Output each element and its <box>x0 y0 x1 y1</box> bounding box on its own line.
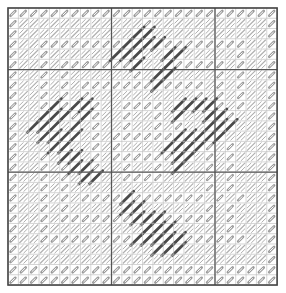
arrow-stitch <box>135 196 140 201</box>
arrow-stitch <box>73 278 78 283</box>
hatch-stitch <box>216 255 224 263</box>
hatch-stitch <box>71 173 79 181</box>
hatch-stitch <box>226 50 234 58</box>
hatch-stitch <box>113 255 121 263</box>
stitch-chart <box>0 0 286 293</box>
arrow-stitch <box>124 62 129 67</box>
hatch-stitch <box>92 255 100 263</box>
arrow-stitch <box>11 216 16 221</box>
hatch-stitch <box>216 214 224 222</box>
hatch-stitch <box>164 173 172 181</box>
arrow-stitch <box>155 155 160 160</box>
arrow-stitch <box>11 247 16 252</box>
arrow-stitch <box>145 155 150 160</box>
hatch-stitch <box>247 163 255 171</box>
arrow-stitch <box>145 268 150 273</box>
arrow-stitch <box>145 175 150 180</box>
arrow-stitch <box>166 83 171 88</box>
arrow-stitch <box>11 155 16 160</box>
arrow-stitch <box>62 237 67 242</box>
hatch-stitch <box>175 204 183 212</box>
arrow-stitch <box>62 216 67 221</box>
arrow-stitch <box>104 278 109 283</box>
hatch-stitch <box>133 224 141 232</box>
arrow-stitch <box>42 155 47 160</box>
hatch-stitch <box>257 81 265 89</box>
hatch-stitch <box>30 132 38 140</box>
arrow-stitch <box>155 124 160 129</box>
arrow-stitch <box>114 155 119 160</box>
hatch-stitch <box>257 153 265 161</box>
arrow-stitch <box>176 268 181 273</box>
arrow-stitch <box>21 268 26 273</box>
hatch-stitch <box>185 30 193 38</box>
hatch-stitch <box>133 112 141 120</box>
hatch-stitch <box>113 101 121 109</box>
arrow-stitch <box>166 42 171 47</box>
hatch-stitch <box>30 235 38 243</box>
arrow-stitch <box>42 52 47 57</box>
arrow-stitch <box>31 11 36 16</box>
hatch-stitch <box>19 245 27 253</box>
hatch-stitch <box>226 19 234 27</box>
arrow-stitch <box>124 83 129 88</box>
arrow-stitch <box>62 62 67 67</box>
hatch-stitch <box>206 81 214 89</box>
hatch-stitch <box>216 173 224 181</box>
hatch-stitch <box>81 204 89 212</box>
hatch-stitch <box>61 30 69 38</box>
arrow-stitch <box>124 268 129 273</box>
arrow-stitch <box>62 268 67 273</box>
hatch-stitch <box>216 245 224 253</box>
arrow-stitch <box>269 216 274 221</box>
arrow-stitch <box>269 268 274 273</box>
arrow-stitch <box>114 144 119 149</box>
hatch-stitch <box>216 153 224 161</box>
arrow-stitch <box>186 216 191 221</box>
arrow-stitch <box>135 268 140 273</box>
arrow-stitch <box>176 11 181 16</box>
hatch-stitch <box>30 245 38 253</box>
hatch-stitch <box>247 173 255 181</box>
hatch-stitch <box>247 255 255 263</box>
hatch-stitch <box>247 245 255 253</box>
hatch-stitch <box>237 163 245 171</box>
hatch-stitch <box>19 50 27 58</box>
arrow-stitch <box>42 185 47 190</box>
hatch-stitch <box>81 245 89 253</box>
hatch-stitch <box>102 255 110 263</box>
hatch-stitch <box>30 194 38 202</box>
arrow-stitch <box>42 216 47 221</box>
hatch-stitch <box>195 204 203 212</box>
arrow-stitch <box>249 278 254 283</box>
arrow-stitch <box>269 114 274 119</box>
arrow-stitch <box>73 62 78 67</box>
hatch-stitch <box>19 60 27 68</box>
hatch-stitch <box>19 71 27 79</box>
arrow-stitch <box>218 73 223 78</box>
hatch-stitch <box>71 30 79 38</box>
hatch-stitch <box>19 122 27 130</box>
hatch-stitch <box>154 60 162 68</box>
hatch-stitch <box>19 153 27 161</box>
arrow-stitch <box>207 144 212 149</box>
hatch-stitch <box>102 245 110 253</box>
arrow-stitch <box>155 134 160 139</box>
arrow-stitch <box>176 62 181 67</box>
arrow-stitch <box>114 83 119 88</box>
hatch-stitch <box>19 173 27 181</box>
hatch-stitch <box>257 194 265 202</box>
hatch-stitch <box>19 163 27 171</box>
arrow-stitch <box>218 268 223 273</box>
arrow-stitch <box>269 206 274 211</box>
hatch-stitch <box>113 183 121 191</box>
hatch-stitch <box>92 224 100 232</box>
hatch-stitch <box>50 19 58 27</box>
arrow-stitch <box>83 237 88 242</box>
hatch-stitch <box>19 214 27 222</box>
arrow-stitch <box>93 134 98 139</box>
arrow-stitch <box>176 124 181 129</box>
hatch-stitch <box>50 245 58 253</box>
arrow-stitch <box>42 196 47 201</box>
hatch-stitch <box>144 112 152 120</box>
